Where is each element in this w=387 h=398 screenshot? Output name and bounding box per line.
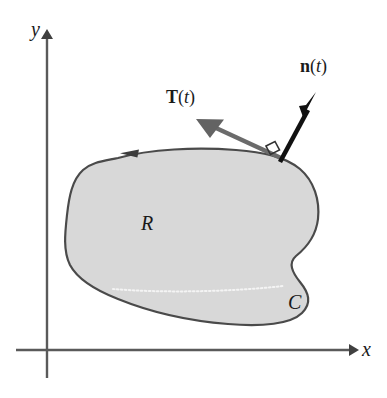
y-axis-label: y [31, 19, 40, 39]
tangent-vector-label: T(t) [166, 88, 195, 106]
region-fill [65, 149, 318, 325]
tangent-parameter-t: t [184, 87, 189, 107]
curve-label-c: C [288, 292, 301, 312]
normal-vector-label-name: n [300, 56, 310, 76]
normal-vector-label-argument: (t) [310, 56, 327, 76]
normal-vector-label: n(t) [300, 57, 327, 75]
normal-vector-shaft [280, 110, 308, 162]
x-axis-label: x [362, 339, 371, 359]
region-label-r: R [141, 213, 153, 233]
normal-vector [280, 92, 316, 162]
figure-canvas: y x R C T(t) n(t) [0, 0, 387, 398]
tangent-vector-label-argument: (t) [178, 87, 195, 107]
region-group [65, 149, 318, 325]
normal-parameter-t: t [316, 56, 321, 76]
tangent-vector-label-name: T [166, 87, 178, 107]
vector-field-diagram [0, 0, 387, 398]
